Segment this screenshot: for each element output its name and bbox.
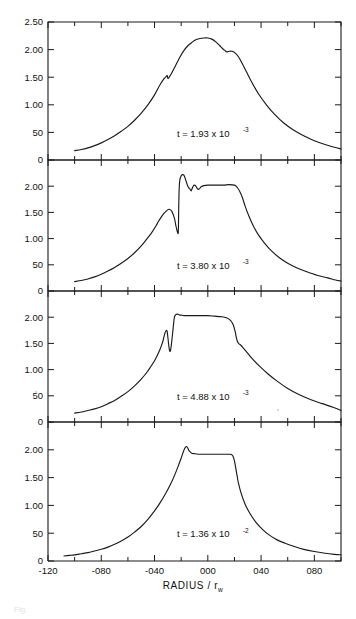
time-annotation-0: t = 1.93 x 10-3 xyxy=(177,126,249,139)
x-axis-tick-labels: -120-080-040000040080 xyxy=(38,565,322,576)
plot-panel-0: 2.502.001.501.00500t = 1.93 x 10-3 xyxy=(25,16,342,165)
multi-panel-chart: 2.502.001.501.00500t = 1.93 x 10-32.001.… xyxy=(0,0,356,619)
x-tick-label-4: 040 xyxy=(253,565,269,576)
figure-container: 2.502.001.501.00500t = 1.93 x 10-32.001.… xyxy=(0,0,356,619)
y-tick-label-1-2: 1.00 xyxy=(25,233,44,244)
y-tick-label-2-0: 2.00 xyxy=(25,312,44,323)
y-tick-label-3-2: 1.00 xyxy=(25,500,44,511)
data-curve-3 xyxy=(64,446,341,556)
time-annotation-exponent-0: -3 xyxy=(243,126,249,133)
y-tick-label-3-1: 1.50 xyxy=(25,472,44,483)
x-axis-title-subscript: w xyxy=(217,586,223,593)
time-annotation-exponent-3: -2 xyxy=(243,527,249,534)
plot-panel-3: 2.001.501.00500t = 1.36 x 10-2 xyxy=(25,422,342,566)
panel-frame-2 xyxy=(48,291,341,422)
y-tick-label-2-3: 50 xyxy=(32,390,43,401)
time-annotation-1: t = 3.80 x 10-3 xyxy=(177,258,249,271)
figure-caption-faint: Fig. xyxy=(14,605,27,614)
y-tick-label-2-4: 0 xyxy=(38,416,43,427)
time-annotation-base-3: t = 1.36 x 10 xyxy=(177,528,230,539)
panel-frame-0 xyxy=(48,22,341,160)
y-tick-label-1-4: 0 xyxy=(38,285,43,296)
y-tick-label-2-1: 1.50 xyxy=(25,338,44,349)
x-tick-label-3: 000 xyxy=(200,565,216,576)
time-annotation-exponent-1: -3 xyxy=(243,258,249,265)
y-tick-label-0-0: 2.50 xyxy=(25,16,44,27)
time-annotation-2: t = 4.88 x 10-3 xyxy=(177,389,249,402)
speck-artifact-right xyxy=(277,409,279,411)
plot-panel-1: 2.001.501.00500t = 3.80 x 10-3 xyxy=(25,160,342,296)
y-tick-label-0-3: 1.00 xyxy=(25,99,44,110)
panel-group: 2.502.001.501.00500t = 1.93 x 10-32.001.… xyxy=(25,16,342,566)
x-tick-label-0: -120 xyxy=(38,565,57,576)
time-annotation-3: t = 1.36 x 10-2 xyxy=(177,527,249,540)
panel-frame-3 xyxy=(48,422,341,561)
y-tick-label-1-1: 1.50 xyxy=(25,207,44,218)
y-tick-label-0-1: 2.00 xyxy=(25,44,44,55)
speck-artifact-left xyxy=(35,391,37,393)
x-tick-label-2: -040 xyxy=(145,565,164,576)
time-annotation-base-2: t = 4.88 x 10 xyxy=(177,391,230,402)
y-tick-label-1-3: 50 xyxy=(32,259,43,270)
y-tick-label-1-0: 2.00 xyxy=(25,181,44,192)
x-axis-title: RADIUS / rw xyxy=(163,580,224,593)
y-tick-label-0-4: 50 xyxy=(32,127,43,138)
x-tick-label-5: 080 xyxy=(306,565,322,576)
y-tick-label-0-5: 0 xyxy=(38,154,43,165)
y-tick-label-3-0: 2.00 xyxy=(25,444,44,455)
y-tick-label-0-2: 1.50 xyxy=(25,72,44,83)
time-annotation-base-1: t = 3.80 x 10 xyxy=(177,260,230,271)
x-axis-title-main: RADIUS / r xyxy=(163,580,219,591)
time-annotation-exponent-2: -3 xyxy=(243,389,249,396)
y-tick-label-3-3: 50 xyxy=(32,528,43,539)
y-tick-label-2-2: 1.00 xyxy=(25,364,44,375)
panel-frame-1 xyxy=(48,160,341,291)
plot-panel-2: 2.001.501.00500t = 4.88 x 10-3 xyxy=(25,291,342,427)
time-annotation-base-0: t = 1.93 x 10 xyxy=(177,128,230,139)
x-tick-label-1: -080 xyxy=(92,565,111,576)
